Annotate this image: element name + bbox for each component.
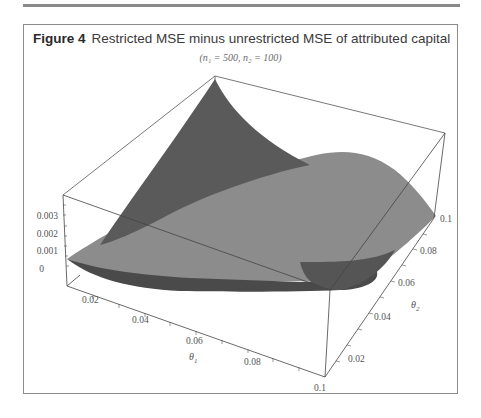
theta1-tick-01: 0.1 <box>314 383 326 393</box>
z-tick-0002: 0.002 <box>37 229 59 239</box>
theta1-tick-008: 0.08 <box>244 357 261 367</box>
theta1-tick-006: 0.06 <box>186 336 203 346</box>
theta1-axis-label: θ1 <box>189 351 197 365</box>
z-tick-0003: 0.003 <box>37 211 59 221</box>
theta2-tick-008: 0.08 <box>420 246 437 256</box>
z-tick-0001: 0.001 <box>37 246 59 256</box>
theta1-tick-002: 0.02 <box>82 295 99 305</box>
z-tick-0: 0 <box>39 264 44 274</box>
theta2-axis-label: θ2 <box>411 299 420 313</box>
theta2-tick-004: 0.04 <box>374 312 391 322</box>
theta2-tick-006: 0.06 <box>398 278 415 288</box>
surface-plot: 0.003 0.002 0.001 0 0.02 0.04 0.06 0.08 … <box>0 0 481 418</box>
theta2-tick-002: 0.02 <box>348 354 365 364</box>
theta2-tick-01: 0.1 <box>440 214 452 224</box>
theta1-tick-004: 0.04 <box>132 315 149 325</box>
